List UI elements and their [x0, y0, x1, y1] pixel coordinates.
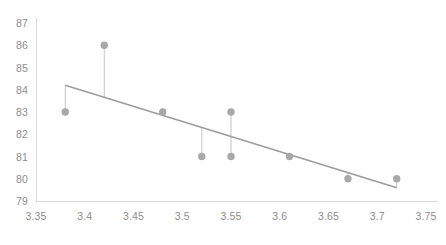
x-axis-tick-label: 3.4: [77, 210, 92, 222]
x-axis-tick-label: 3.75: [416, 210, 437, 222]
y-axis-tick-label: 87: [0, 17, 28, 29]
y-axis-tick-label: 80: [0, 173, 28, 185]
chart-container: 878685848382818079 3.353.43.453.53.553.6…: [0, 0, 446, 245]
y-axis-tick-label: 84: [0, 84, 28, 96]
x-axis-tick-label: 3.45: [123, 210, 144, 222]
y-axis-tick-label: 86: [0, 39, 28, 51]
x-axis-tick-label: 3.55: [221, 210, 242, 222]
residual-connectors: [65, 45, 397, 187]
y-axis-tick-label: 85: [0, 62, 28, 74]
x-axis-tick-label: 3.6: [272, 210, 287, 222]
y-axis-tick-label: 79: [0, 195, 28, 207]
x-axis-tick-label: 3.35: [26, 210, 47, 222]
y-axis-tick-label: 81: [0, 151, 28, 163]
x-axis-tick-label: 3.65: [318, 210, 339, 222]
axis-lines: [36, 18, 438, 201]
data-point-markers: [62, 42, 401, 183]
x-axis-tick-label: 3.5: [175, 210, 190, 222]
x-axis-tick-label: 3.7: [370, 210, 385, 222]
plot-area: [0, 0, 446, 245]
y-axis-tick-label: 83: [0, 106, 28, 118]
y-axis-tick-label: 82: [0, 128, 28, 140]
trend-line: [65, 85, 397, 187]
